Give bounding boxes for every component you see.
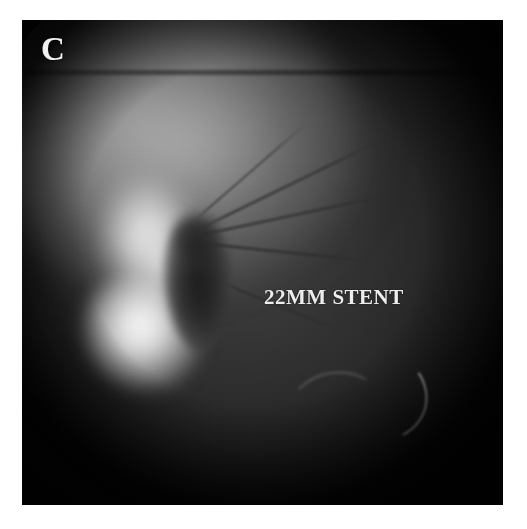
page-root: C 22MM STENT — [0, 0, 527, 529]
stent-annotation-label: 22MM STENT — [264, 285, 404, 310]
panel-letter-label: C — [41, 33, 65, 66]
film-grain-texture — [22, 20, 503, 505]
radiograph-plate: C 22MM STENT — [22, 20, 503, 505]
